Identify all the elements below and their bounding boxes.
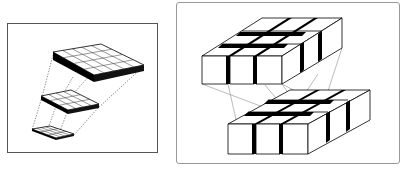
bottom-feature-layer [32,126,74,140]
top-feature-layer [53,44,144,82]
middle-feature-layer [41,90,99,114]
diagram-canvas [0,0,409,172]
upper-cube-array [202,18,342,84]
lower-cube-array [228,90,370,154]
